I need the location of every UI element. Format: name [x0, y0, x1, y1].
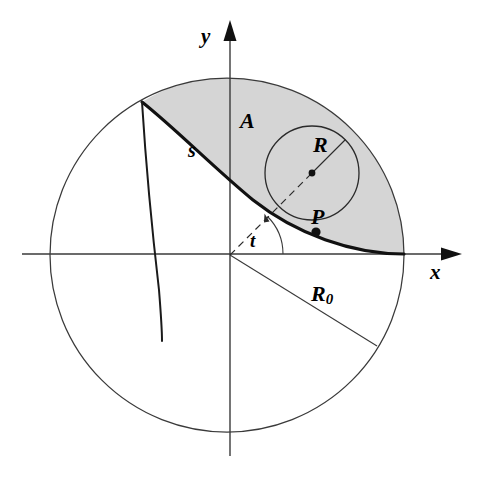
inner-circle-center-dot: [309, 170, 316, 177]
x-axis-arrowhead: [441, 248, 462, 261]
x-axis-label: x: [430, 262, 441, 283]
angle-arc-t: [268, 217, 284, 255]
arc-length-label-s: s: [188, 140, 196, 160]
outer-radius-label-R0: R0: [311, 283, 333, 307]
shaded-region-A: [142, 76, 404, 254]
y-axis-arrowhead: [224, 20, 237, 41]
y-axis-label: y: [201, 26, 210, 47]
radius-line-R0: [230, 255, 377, 346]
geometry-diagram-svg: [0, 0, 478, 491]
inner-radius-label-R: R: [313, 134, 328, 156]
outer-radius-subscript: 0: [326, 291, 333, 307]
outer-radius-base: R: [311, 281, 326, 306]
point-label-P: P: [311, 206, 324, 228]
angle-label-t: t: [250, 231, 255, 250]
figure-canvas: y x A s R P t R0: [0, 0, 478, 491]
thin-arc-curve: [142, 102, 162, 341]
area-label-A: A: [240, 110, 255, 132]
